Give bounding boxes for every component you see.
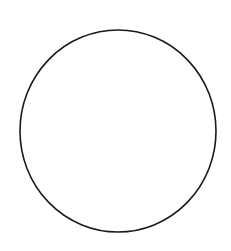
diagram-canvas <box>0 0 231 251</box>
circle-outline <box>20 30 216 232</box>
